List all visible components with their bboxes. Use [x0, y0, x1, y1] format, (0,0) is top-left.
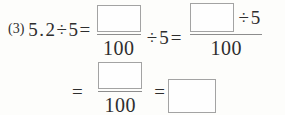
- equation-line-1: (3) 5.2÷5= 100 ÷5= ÷5 100: [8, 2, 267, 66]
- middle-operator: ÷5=: [147, 28, 184, 47]
- answer-box-3[interactable]: [98, 62, 142, 89]
- answer-box-4[interactable]: [168, 79, 216, 113]
- fraction-2-numerator: ÷5: [190, 3, 262, 34]
- fraction-3-numerator: [98, 60, 142, 91]
- fraction-1-numerator: [97, 3, 141, 34]
- problem-number: (3): [8, 21, 24, 37]
- answer-box-1[interactable]: [97, 5, 141, 32]
- fraction-2-numerator-operator: ÷5: [238, 8, 262, 27]
- fraction-2: ÷5 100: [185, 3, 267, 66]
- equation-line-2: = 100 =: [72, 59, 216, 114]
- lead-expression: 5.2÷5=: [28, 20, 91, 39]
- fraction-3: 100: [90, 60, 150, 115]
- equals-sign-2: =: [154, 82, 166, 101]
- fraction-1: 100: [94, 3, 144, 66]
- answer-box-2[interactable]: [190, 3, 234, 32]
- fraction-3-denominator: 100: [104, 92, 136, 115]
- equals-sign-1: =: [72, 82, 84, 101]
